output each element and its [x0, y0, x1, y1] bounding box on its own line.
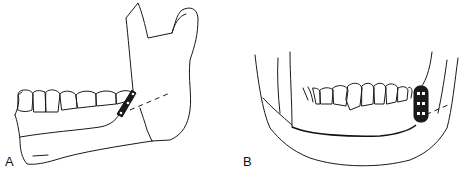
mandible-illustration [0, 0, 467, 177]
panel-b-mandible [255, 52, 458, 166]
panel-a-mandible [15, 3, 198, 164]
